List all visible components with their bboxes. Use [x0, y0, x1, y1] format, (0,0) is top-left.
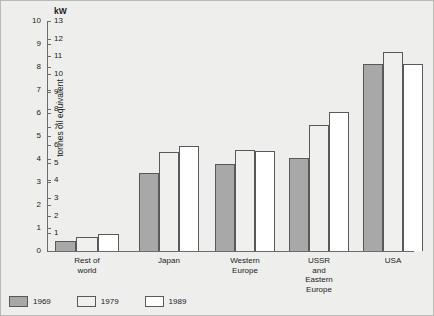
- legend-label: 1989: [169, 297, 187, 306]
- legend-label: 1979: [101, 297, 119, 306]
- x-axis-category-label: USA: [385, 256, 401, 266]
- bar-group: Western Europe: [215, 21, 275, 251]
- legend-swatch: [77, 296, 96, 307]
- bar-group-bars: [139, 21, 199, 251]
- tick-label: 10: [32, 15, 41, 26]
- tick-mark: [47, 216, 51, 217]
- tick-mark: [47, 113, 51, 114]
- tick-mark: [47, 67, 51, 68]
- bar-1969: [139, 173, 159, 251]
- x-axis-line: [47, 251, 414, 252]
- plot-area: tonnes oil equivalent 012345678910 12345…: [47, 21, 413, 251]
- x-axis-category-label: Japan: [158, 256, 180, 266]
- tick-mark: [47, 21, 51, 22]
- tick-label: 3: [37, 176, 41, 187]
- x-axis-category-label: Western Europe: [230, 256, 260, 275]
- tick-label: 0: [37, 245, 41, 256]
- legend-item-1969: 1969: [9, 296, 51, 307]
- bar-1979: [159, 152, 179, 251]
- chart-figure: kW tonnes oil equivalent 012345678910 12…: [0, 0, 434, 316]
- bar-1979: [383, 52, 403, 251]
- tick-mark: [47, 159, 51, 160]
- tick-mark: [47, 92, 51, 93]
- bar-group: USA: [363, 21, 423, 251]
- tick-mark: [47, 251, 51, 252]
- tick-label: 6: [37, 107, 41, 118]
- bar-1979: [76, 237, 97, 251]
- legend-swatch: [9, 296, 28, 307]
- bar-1989: [255, 151, 275, 251]
- tick-label: 9: [37, 38, 41, 49]
- bar-1989: [179, 146, 199, 251]
- chart-legend: 196919791989: [9, 296, 212, 307]
- bar-1989: [403, 64, 423, 251]
- tick-mark: [47, 205, 51, 206]
- tick-mark: [47, 180, 51, 181]
- bar-1969: [289, 158, 309, 251]
- bar-1969: [363, 64, 383, 251]
- tick-label: 7: [37, 84, 41, 95]
- bar-group-bars: [363, 21, 423, 251]
- tick-mark: [47, 145, 51, 146]
- bar-group: Japan: [139, 21, 199, 251]
- tick-mark: [47, 182, 51, 183]
- bar-1979: [235, 150, 255, 251]
- tick-mark: [47, 163, 51, 164]
- tick-mark: [47, 228, 51, 229]
- bar-1989: [98, 234, 119, 251]
- tick-mark: [47, 136, 51, 137]
- bar-group-bars: [215, 21, 275, 251]
- tick-mark: [47, 198, 51, 199]
- x-axis-category-label: Rest of world: [71, 256, 103, 275]
- legend-item-1989: 1989: [145, 296, 187, 307]
- tick-mark: [47, 233, 51, 234]
- tick-label: 1: [37, 222, 41, 233]
- bar-group-bars: [55, 21, 119, 251]
- legend-item-1979: 1979: [77, 296, 119, 307]
- tick-mark: [47, 56, 51, 57]
- x-axis-category-label: USSR and Eastern Europe: [304, 256, 334, 294]
- tick-label: 5: [37, 130, 41, 141]
- bar-1989: [329, 112, 349, 251]
- bar-1969: [55, 241, 76, 251]
- tick-label: 2: [37, 199, 41, 210]
- bar-group: Rest of world: [55, 21, 119, 251]
- bar-group: USSR and Eastern Europe: [289, 21, 349, 251]
- legend-label: 1969: [33, 297, 51, 306]
- tick-mark: [47, 109, 51, 110]
- bar-1969: [215, 164, 235, 251]
- tick-mark: [47, 74, 51, 75]
- tick-label: 4: [37, 153, 41, 164]
- bar-1979: [309, 125, 329, 252]
- bar-group-bars: [289, 21, 349, 251]
- tick-mark: [47, 127, 51, 128]
- tick-mark: [47, 39, 51, 40]
- tick-label: 8: [37, 61, 41, 72]
- legend-swatch: [145, 296, 164, 307]
- tick-mark: [47, 44, 51, 45]
